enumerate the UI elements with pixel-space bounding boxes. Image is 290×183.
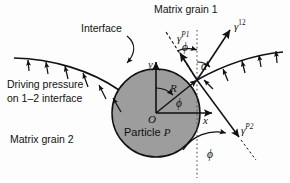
matrix-grain-2-label: Matrix grain 2 — [10, 134, 74, 146]
driving-pressure-label-line1: Driving pressure — [7, 79, 83, 91]
gamma-p2-label: γP2 — [241, 123, 253, 136]
gamma-12-label: γ12 — [234, 19, 246, 32]
interface-curve-right — [197, 52, 283, 80]
alpha-label: α — [201, 60, 207, 73]
y-axis-label: y — [148, 58, 153, 70]
phi-interior-label: ϕ — [176, 97, 182, 110]
particle-label-text: Particle — [124, 126, 161, 138]
radius-label: R — [170, 82, 177, 94]
phi-lower-label: ϕ — [207, 148, 213, 161]
gamma-p2-dashed-line — [241, 140, 256, 160]
gamma-p2-superscript: P2 — [245, 123, 253, 131]
phi-upper-label: ϕ — [182, 41, 188, 54]
interface-leader-line — [127, 36, 134, 63]
gamma-p1-superscript: P1 — [181, 31, 189, 39]
figure-container: Matrix grain 1 Matrix grain 2 Interface … — [0, 0, 290, 183]
gamma-p2-arrow — [197, 80, 239, 137]
origin-label: O — [148, 113, 156, 125]
gamma-12-superscript: 12 — [238, 19, 245, 27]
particle-label: Particle P — [124, 126, 170, 138]
gamma-p1-arrow — [180, 53, 197, 80]
interface-label: Interface — [81, 23, 122, 35]
matrix-grain-1-label: Matrix grain 1 — [154, 4, 218, 16]
driving-pressure-label-line2: on 1–2 interface — [7, 93, 82, 105]
particle-symbol: P — [164, 126, 171, 138]
x-axis-label: x — [203, 114, 208, 126]
